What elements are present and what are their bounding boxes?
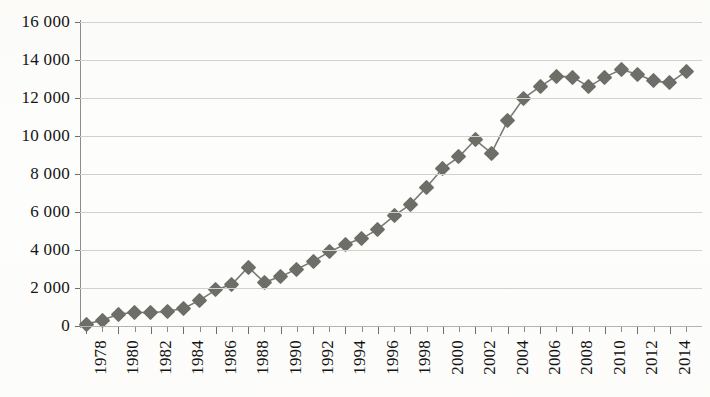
- gridline: [80, 174, 702, 175]
- y-axis-label: 16 000: [0, 13, 70, 30]
- y-axis-tick: [75, 60, 80, 61]
- y-axis-label: 6 000: [0, 203, 70, 220]
- y-axis-label: 0: [0, 317, 70, 334]
- x-axis-label: 1998: [416, 340, 433, 375]
- y-axis-tick: [75, 136, 80, 137]
- x-axis-label: 2014: [676, 340, 693, 375]
- gridline: [80, 60, 702, 61]
- gridline: [80, 250, 702, 251]
- y-axis-label: 14 000: [0, 51, 70, 68]
- x-axis-label: 2012: [643, 340, 660, 375]
- x-axis-label: 2004: [514, 340, 531, 375]
- gridline: [80, 98, 702, 99]
- x-axis-label: 1984: [189, 340, 206, 375]
- x-axis-label: 1990: [287, 340, 304, 375]
- x-axis-label: 1992: [319, 340, 336, 375]
- y-axis-tick: [75, 22, 80, 23]
- chart-container: 02 0004 0006 0008 00010 00012 00014 0001…: [0, 0, 710, 397]
- gridline: [80, 212, 702, 213]
- y-axis-label: 12 000: [0, 89, 70, 106]
- x-axis-label: 2006: [546, 340, 563, 375]
- y-axis-label: 2 000: [0, 279, 70, 296]
- y-axis-tick: [75, 288, 80, 289]
- x-axis-label: 2002: [481, 340, 498, 375]
- y-axis-tick: [75, 250, 80, 251]
- plot-area: [80, 22, 702, 326]
- x-axis-label: 2010: [611, 340, 628, 375]
- y-axis-tick: [75, 174, 80, 175]
- x-axis-label: 1996: [384, 340, 401, 375]
- x-axis-label: 1986: [222, 340, 239, 375]
- y-axis-label: 8 000: [0, 165, 70, 182]
- gridline: [80, 136, 702, 137]
- y-axis-label: 4 000: [0, 241, 70, 258]
- x-axis-label: 2008: [578, 340, 595, 375]
- x-axis-label: 1980: [124, 340, 141, 375]
- x-axis-label: 2000: [449, 340, 466, 375]
- x-axis-label: 1978: [92, 340, 109, 375]
- y-axis-label: 10 000: [0, 127, 70, 144]
- y-axis-tick: [75, 98, 80, 99]
- x-axis-label: 1988: [254, 340, 271, 375]
- gridline: [80, 22, 702, 23]
- x-axis-label: 1994: [351, 340, 368, 375]
- x-axis-label: 1982: [157, 340, 174, 375]
- y-axis-tick: [75, 212, 80, 213]
- gridline: [80, 288, 702, 289]
- x-axis-labels: 1978198019821984198619881990199219941996…: [80, 330, 702, 397]
